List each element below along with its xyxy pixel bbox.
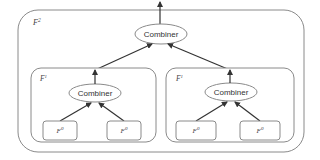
- top-combiner-label: Combiner: [144, 30, 179, 39]
- recursive-combiner-diagram: F2 Combiner F1 Combiner F0 F0 F1 Combine…: [0, 0, 320, 160]
- left-combiner-label: Combiner: [78, 89, 113, 98]
- right-combiner-label: Combiner: [214, 88, 249, 97]
